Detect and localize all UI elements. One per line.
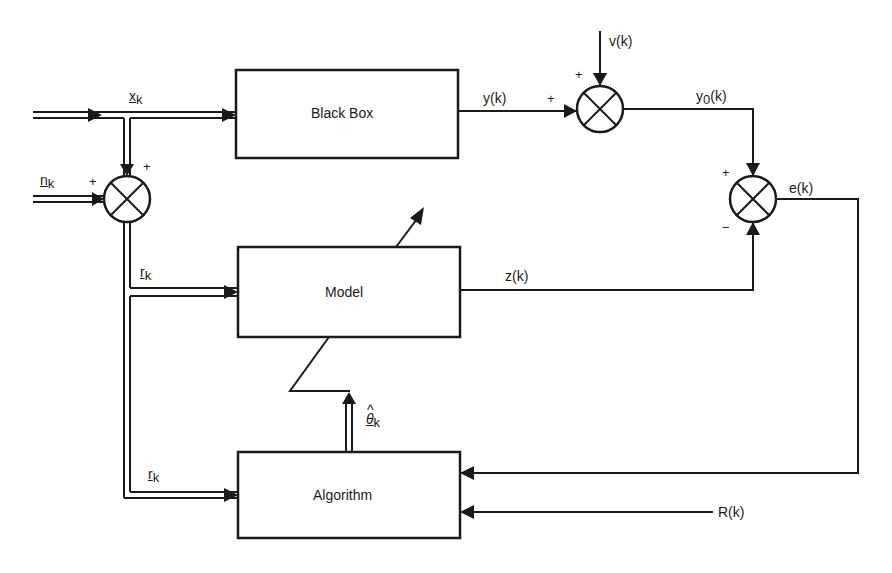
parameter-adjust-line (290, 337, 350, 391)
summing-junction-error (730, 176, 776, 222)
plus-sign-noise-top: + (575, 68, 583, 81)
x-k-base: x (129, 88, 136, 104)
plus-sign-noise-left: + (547, 92, 555, 105)
n-k-base: n (40, 172, 48, 188)
signal-x-k-line (33, 112, 236, 176)
model-label: Model (325, 285, 363, 299)
y0-k-label: y0(k) (696, 89, 727, 103)
signal-z-k-line (460, 222, 753, 290)
block-diagram-canvas (0, 0, 892, 573)
e-k-label: e(k) (789, 181, 813, 195)
y0-tail: (k) (710, 88, 726, 104)
r-k-alg-sub: k (153, 470, 160, 485)
theta-hat-k-label: ^θk (366, 412, 380, 426)
n-k-label: nk (40, 173, 54, 187)
y-k-label: y(k) (483, 91, 506, 105)
x-k-sub: k (136, 92, 143, 107)
r-k-model-label: rk (140, 265, 151, 279)
y0-base: y (696, 88, 703, 104)
y0-sub: 0 (703, 92, 710, 107)
r-k-alg-base: r (148, 466, 153, 482)
minus-sign-error-bottom: − (722, 221, 730, 234)
r-k-model-base: r (140, 264, 145, 280)
plus-sign-error-top: + (722, 166, 730, 179)
signal-y0-k-line (623, 109, 753, 176)
x-k-label: xk (129, 89, 143, 103)
v-k-label: v(k) (609, 34, 632, 48)
algorithm-label: Algorithm (313, 488, 372, 502)
R-k-label: R(k) (718, 505, 744, 519)
black-box-label: Black Box (311, 106, 373, 120)
theta-sub: k (374, 415, 381, 430)
adjustable-model-arrow (396, 219, 417, 247)
summing-junction-input (104, 176, 150, 222)
theta-hat-symbol: ^ (367, 403, 374, 417)
r-k-model-sub: k (145, 268, 152, 283)
z-k-label: z(k) (505, 269, 528, 283)
r-k-algorithm-label: rk (148, 467, 159, 481)
plus-sign-input-top: + (143, 160, 151, 173)
summing-junction-noise (577, 86, 623, 132)
plus-sign-input-left: + (89, 175, 97, 188)
signal-theta-k-line (346, 404, 352, 452)
signal-e-k-line (460, 199, 858, 473)
n-k-sub: k (48, 176, 55, 191)
